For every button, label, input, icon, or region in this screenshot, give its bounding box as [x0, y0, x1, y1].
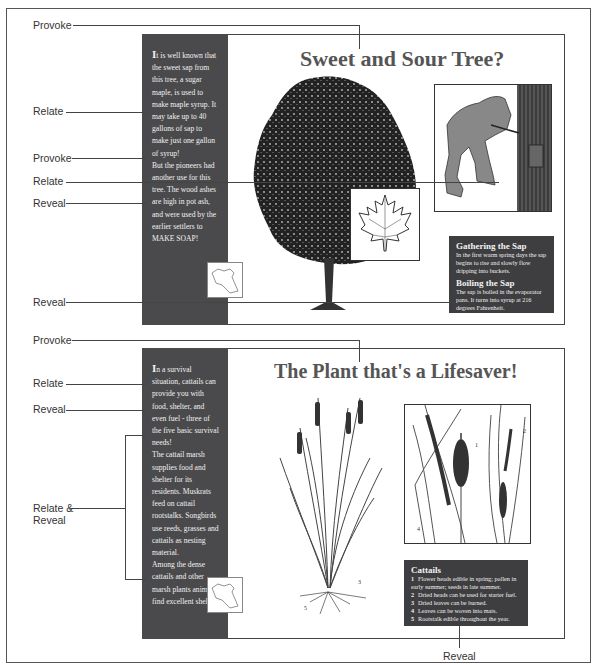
annotation-provoke-1: Provoke — [33, 19, 72, 31]
bracket-line — [70, 508, 126, 509]
panel2-title: The Plant that's a Lifesaver! — [274, 360, 517, 383]
man-tapping-tree-icon — [435, 85, 551, 211]
panel1-location-map — [207, 262, 243, 298]
leader-line — [66, 384, 146, 385]
panel1-infobox: Gathering the Sap In the first warm spri… — [449, 236, 554, 313]
list-item: 5Rootstalk edible throughout the year. — [411, 615, 521, 623]
list-item: 1Flower heads edible in spring; pollen i… — [411, 575, 521, 591]
map-outline-icon — [208, 263, 242, 297]
bracket-line — [125, 435, 126, 580]
panel1-title: Sweet and Sour Tree? — [300, 46, 504, 72]
leader-line — [66, 203, 146, 204]
panel2-sidebar-para-2: The cattail marsh supplies food and shel… — [152, 449, 220, 559]
infobox-heading-boiling: Boiling the Sap — [456, 278, 547, 288]
leader-line — [66, 302, 451, 303]
bracket-line — [125, 435, 146, 436]
svg-text:4: 4 — [417, 526, 420, 532]
svg-text:2: 2 — [523, 428, 526, 434]
panel1-sidebar-para-1: It is well known that the sweet sap from… — [152, 48, 220, 160]
leader-line — [359, 340, 360, 362]
annotation-reveal-1: Reveal — [33, 197, 66, 209]
cattail-plant-illustration: 3 5 — [270, 388, 388, 620]
annotation-provoke-3: Provoke — [33, 334, 72, 346]
annotation-relate-3: Relate — [33, 377, 63, 389]
list-item: 3Dried leaves can be burned. — [411, 599, 521, 607]
leader-line — [359, 25, 360, 49]
annotation-relate-1: Relate — [33, 105, 63, 117]
annotation-relate-2: Relate — [33, 175, 63, 187]
annotation-reveal-3: Reveal — [33, 403, 66, 415]
cattail-detail-illustration: 1 2 4 — [404, 404, 531, 544]
svg-text:3: 3 — [358, 579, 361, 585]
maple-leaf-icon — [351, 189, 419, 260]
leader-line — [66, 112, 146, 113]
annotation-relate-reveal: Relate & Reveal — [33, 502, 73, 526]
maple-leaf-illustration — [350, 188, 420, 261]
panel2-sidebar-para-1: In a survival situation, cattails can pr… — [152, 362, 220, 449]
svg-text:5: 5 — [304, 605, 307, 611]
panel1-sidebar-para-2: But the pioneers had another use for thi… — [152, 160, 220, 245]
annotation-provoke-2: Provoke — [33, 152, 72, 164]
panel2-location-map — [207, 577, 243, 613]
infobox-text-boiling: The sap is boiled in the evaporator pans… — [456, 288, 547, 312]
bracket-line — [125, 579, 146, 580]
leader-line — [66, 410, 146, 411]
panel2-infobox: Cattails 1Flower heads edible in spring;… — [404, 560, 528, 626]
leader-line — [66, 182, 499, 183]
map-outline-icon — [208, 578, 242, 612]
cattails-uses-list: 1Flower heads edible in spring; pollen i… — [411, 575, 521, 623]
list-item: 4Leaves can be woven into mats. — [411, 607, 521, 615]
sap-tapping-illustration — [434, 84, 552, 212]
leader-line — [73, 25, 360, 26]
leader-line — [72, 340, 360, 341]
annotation-reveal-bottom: Reveal — [443, 650, 476, 662]
list-item: 2Dried heads can be used for starter fue… — [411, 591, 521, 599]
svg-text:1: 1 — [475, 442, 478, 448]
cattail-plant-icon: 3 5 — [270, 388, 388, 620]
infobox-heading-gathering: Gathering the Sap — [456, 241, 547, 251]
cattail-heads-icon: 1 2 4 — [405, 405, 530, 543]
infobox-heading-cattails: Cattails — [411, 565, 521, 575]
infobox-text-gathering: In the first warm spring days the sap be… — [456, 251, 547, 275]
annotation-reveal-2: Reveal — [33, 296, 66, 308]
leader-line — [72, 158, 146, 159]
leader-line — [459, 626, 460, 648]
